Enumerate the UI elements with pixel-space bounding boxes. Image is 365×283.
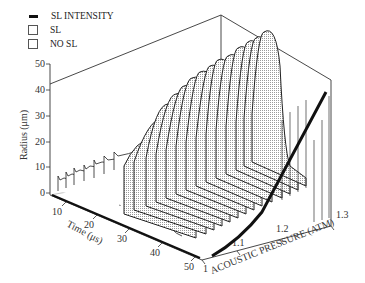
svg-text:10: 10 (52, 206, 62, 217)
waterfall-chart: 50 40 30 20 10 0 Radius (μm) 10 20 30 40… (0, 0, 365, 283)
svg-text:30: 30 (117, 233, 127, 244)
svg-text:40: 40 (150, 247, 160, 258)
radius-axis-label: Radius (μm) (18, 110, 30, 160)
svg-text:30: 30 (35, 110, 45, 121)
svg-text:40: 40 (35, 84, 45, 95)
svg-text:20: 20 (35, 136, 45, 147)
radius-tick-labels: 50 40 30 20 10 0 (35, 58, 45, 198)
svg-text:50: 50 (184, 261, 194, 272)
sl-traces (124, 31, 306, 238)
svg-text:1.2: 1.2 (276, 223, 289, 234)
radius-axis (46, 64, 50, 193)
svg-text:10: 10 (35, 161, 45, 172)
svg-text:1: 1 (203, 263, 208, 274)
svg-text:50: 50 (35, 58, 45, 69)
svg-text:1.3: 1.3 (336, 209, 349, 220)
svg-text:0: 0 (40, 187, 45, 198)
